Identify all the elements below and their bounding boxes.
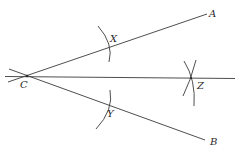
point-c <box>26 75 29 78</box>
bisector-line <box>5 77 235 79</box>
arc-x <box>98 26 110 62</box>
label-b: B <box>209 136 217 147</box>
point-z <box>190 77 192 79</box>
label-x: X <box>109 33 118 44</box>
label-a: A <box>208 8 216 19</box>
arc-from-x-at-z <box>184 61 194 106</box>
label-z: Z <box>196 80 205 91</box>
label-y: Y <box>107 108 115 119</box>
label-c: C <box>20 79 28 90</box>
ray-ca <box>8 14 207 82</box>
angle-bisector-diagram: A X C Z Y B <box>0 0 236 150</box>
ray-cb <box>9 69 205 140</box>
